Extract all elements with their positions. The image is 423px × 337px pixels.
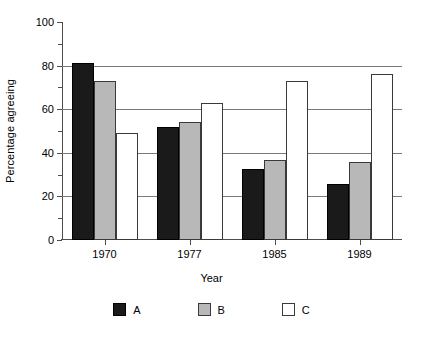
y-tick-major (57, 153, 62, 154)
x-tick-label-1989: 1989 (347, 248, 371, 260)
x-tick (275, 240, 276, 245)
y-tick-minor (58, 87, 62, 88)
x-tick (190, 240, 191, 245)
plot-area: 020406080100 (62, 22, 402, 240)
y-tick-label: 20 (42, 190, 54, 202)
bar-c-1977 (201, 103, 223, 240)
x-tick-label-1977: 1977 (177, 248, 201, 260)
legend-item-a: A (113, 303, 140, 316)
y-tick-label: 0 (48, 234, 54, 246)
bar-a-1989 (327, 184, 349, 240)
y-tick-minor (58, 131, 62, 132)
x-tick-label-1985: 1985 (262, 248, 286, 260)
y-tick-major (57, 22, 62, 23)
y-tick-label: 40 (42, 147, 54, 159)
legend-swatch-c (282, 303, 295, 316)
y-tick-major (57, 66, 62, 67)
bar-chart: Percentage agreeing 020406080100 1970197… (0, 0, 423, 337)
y-tick-label: 100 (36, 16, 54, 28)
bar-c-1985 (286, 81, 308, 240)
gridline (62, 66, 402, 67)
bar-b-1977 (179, 122, 201, 240)
bar-b-1970 (94, 81, 116, 240)
legend-label-b: B (218, 304, 225, 316)
y-tick-minor (58, 175, 62, 176)
y-tick-label: 60 (42, 103, 54, 115)
bar-b-1989 (349, 162, 371, 240)
y-tick-major (57, 196, 62, 197)
bar-a-1977 (157, 127, 179, 240)
bar-b-1985 (264, 160, 286, 240)
y-tick-minor (58, 218, 62, 219)
y-tick-minor (58, 44, 62, 45)
x-tick-label-1970: 1970 (92, 248, 116, 260)
legend-item-c: C (282, 303, 310, 316)
legend: ABC (0, 303, 423, 316)
bar-a-1970 (72, 63, 94, 240)
y-tick-major (57, 109, 62, 110)
y-axis-line (62, 22, 63, 240)
legend-swatch-b (198, 303, 211, 316)
legend-item-b: B (198, 303, 225, 316)
bar-a-1985 (242, 169, 264, 240)
bar-c-1989 (371, 74, 393, 240)
x-tick (360, 240, 361, 245)
y-tick-label: 80 (42, 60, 54, 72)
bar-c-1970 (116, 133, 138, 240)
y-tick-major (57, 240, 62, 241)
x-tick (105, 240, 106, 245)
legend-label-c: C (302, 304, 310, 316)
y-axis-title: Percentage agreeing (2, 22, 18, 240)
x-axis-title: Year (0, 272, 423, 284)
legend-label-a: A (133, 304, 140, 316)
legend-swatch-a (113, 303, 126, 316)
